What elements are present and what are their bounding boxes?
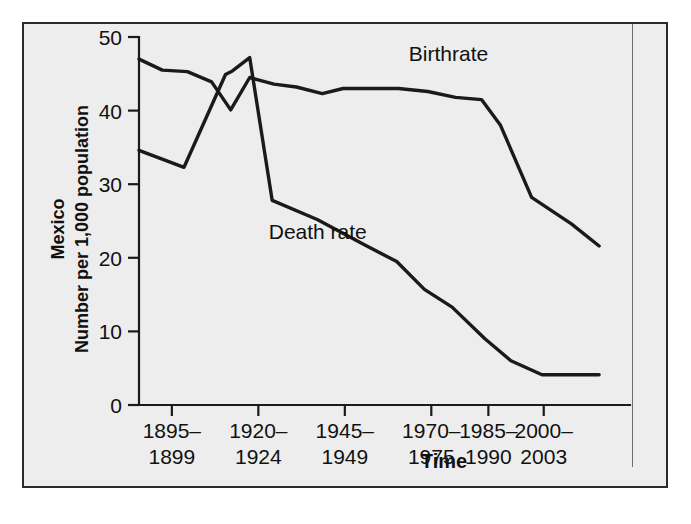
x-tick-label: 2000–: [515, 419, 574, 442]
line-chart: 01020304050 1895–18991920–19241945–19491…: [24, 24, 670, 490]
data-series-group: [139, 58, 599, 375]
figure-frame: 01020304050 1895–18991920–19241945–19491…: [22, 22, 668, 488]
x-axis-title: Time: [421, 450, 467, 472]
y-tick-label: 0: [110, 394, 122, 417]
y-tick-label: 10: [99, 320, 122, 343]
series-label-death-rate: Death rate: [269, 220, 367, 243]
y-tick-label: 50: [99, 26, 122, 49]
series-label-birthrate: Birthrate: [409, 42, 488, 65]
x-tick-label: 1895–: [143, 419, 202, 442]
x-tick-label: 1899: [149, 445, 196, 468]
figure-root: 01020304050 1895–18991920–19241945–19491…: [0, 0, 691, 524]
y-axis-tick-labels: 01020304050: [99, 26, 122, 417]
x-tick-label: 1985–: [459, 419, 518, 442]
x-tick-label: 1970–: [402, 419, 461, 442]
y-axis-title-outer: Mexico: [48, 198, 68, 259]
x-tick-label: 1920–: [229, 419, 288, 442]
x-tick-label: 1924: [235, 445, 282, 468]
x-tick-label: 2003: [520, 445, 567, 468]
y-axis-title: Number per 1,000 population: [72, 105, 92, 353]
x-tick-label: 1990: [465, 445, 512, 468]
x-axis-tick-marks: [172, 405, 544, 416]
x-axis-tick-labels: 1895–18991920–19241945–19491970–19751985…: [143, 419, 574, 468]
y-tick-label: 30: [99, 173, 122, 196]
series-line-birthrate: [139, 59, 599, 246]
x-tick-label: 1945–: [316, 419, 375, 442]
x-tick-label: 1949: [321, 445, 368, 468]
y-axis-tick-marks: [128, 37, 139, 405]
y-tick-label: 40: [99, 100, 122, 123]
y-tick-label: 20: [99, 247, 122, 270]
series-line-death-rate: [139, 58, 599, 375]
